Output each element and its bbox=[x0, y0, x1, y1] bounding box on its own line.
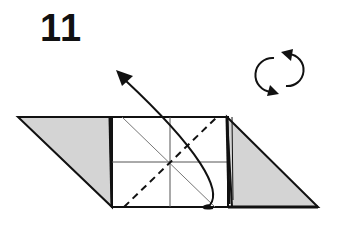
left-flap bbox=[18, 117, 112, 207]
origami-diagram bbox=[0, 0, 346, 230]
center-square bbox=[112, 117, 228, 207]
rotate-model-icon bbox=[255, 49, 303, 96]
right-flap bbox=[227, 117, 318, 207]
